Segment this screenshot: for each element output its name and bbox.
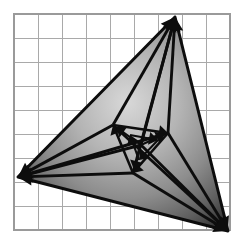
triangle-diagram [0, 0, 243, 251]
figure-container [0, 0, 243, 251]
